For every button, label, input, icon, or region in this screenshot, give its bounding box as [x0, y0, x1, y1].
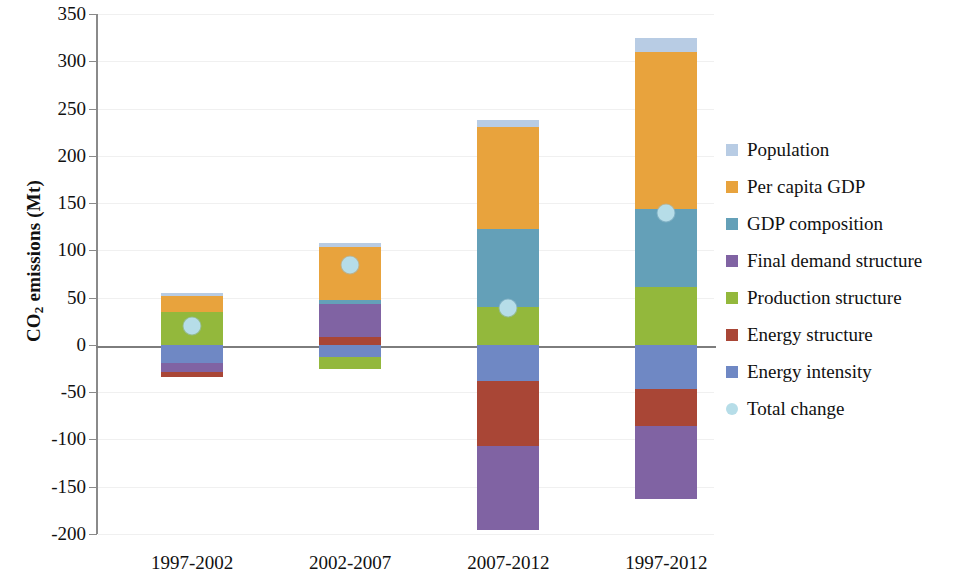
- legend-label: Energy structure: [747, 325, 873, 344]
- legend-item[interactable]: Energy intensity: [726, 353, 948, 390]
- bar-segment[interactable]: [635, 345, 697, 389]
- legend-item[interactable]: Production structure: [726, 279, 948, 316]
- y-axis-title-pre: CO: [23, 313, 44, 342]
- y-tick: [89, 534, 97, 535]
- x-axis-label: 2002-2007: [270, 552, 430, 572]
- legend-label: Per capita GDP: [747, 177, 865, 196]
- bar-segment[interactable]: [161, 296, 223, 312]
- y-tick-label: 200: [58, 145, 87, 167]
- bar-segment[interactable]: [635, 38, 697, 52]
- legend-item[interactable]: Final demand structure: [726, 242, 948, 279]
- y-tick-label: 350: [58, 3, 87, 25]
- legend-label: GDP composition: [747, 214, 883, 233]
- bar-segment[interactable]: [635, 426, 697, 499]
- y-axis-title-post: emissions (Mt): [23, 180, 44, 306]
- legend-item[interactable]: GDP composition: [726, 205, 948, 242]
- bar-segment[interactable]: [161, 345, 223, 363]
- bar-segment[interactable]: [477, 127, 539, 229]
- stacked-bar[interactable]: [477, 14, 539, 534]
- y-tick-label: 300: [58, 50, 87, 72]
- bar-segment[interactable]: [477, 229, 539, 307]
- x-axis-label: 1997-2012: [586, 552, 746, 572]
- legend-swatch-icon: [726, 144, 738, 156]
- bar-group[interactable]: [273, 14, 428, 534]
- legend-label: Population: [747, 140, 829, 159]
- total-change-marker[interactable]: [500, 300, 517, 317]
- bar-segment[interactable]: [161, 293, 223, 296]
- total-change-marker[interactable]: [342, 257, 359, 274]
- y-tick-label: 250: [58, 98, 87, 120]
- stacked-bar[interactable]: [635, 14, 697, 534]
- bar-segment[interactable]: [477, 446, 539, 530]
- legend-swatch-icon: [726, 366, 738, 378]
- y-tick-label: 50: [67, 287, 86, 309]
- legend-label: Production structure: [747, 288, 902, 307]
- total-change-marker[interactable]: [658, 205, 675, 222]
- x-axis-label: 2007-2012: [428, 552, 588, 572]
- bar-segment[interactable]: [319, 243, 381, 247]
- x-axis-label: 1997-2002: [112, 552, 272, 572]
- y-tick-label: -100: [51, 428, 86, 450]
- legend-label: Total change: [747, 399, 844, 418]
- stacked-bar[interactable]: [161, 14, 223, 534]
- legend-label: Final demand structure: [747, 251, 922, 270]
- bar-series-container: [96, 14, 716, 534]
- total-change-marker[interactable]: [184, 318, 201, 335]
- plot-area: 350300250200150100500-50-100-150-200 199…: [96, 14, 716, 534]
- bar-segment[interactable]: [319, 337, 381, 345]
- y-tick-label: -50: [61, 381, 86, 403]
- legend-swatch-icon: [726, 329, 738, 341]
- legend-item[interactable]: Total change: [726, 390, 948, 427]
- bar-segment[interactable]: [477, 120, 539, 127]
- bar-group[interactable]: [115, 14, 270, 534]
- bar-segment[interactable]: [319, 357, 381, 369]
- legend-swatch-icon: [726, 255, 738, 267]
- legend-item[interactable]: Energy structure: [726, 316, 948, 353]
- legend-label: Energy intensity: [747, 362, 872, 381]
- legend-swatch-icon: [726, 181, 738, 193]
- bar-segment[interactable]: [635, 389, 697, 426]
- y-tick-label: -200: [51, 523, 86, 545]
- y-axis-title: CO2 emissions (Mt): [23, 131, 45, 391]
- bar-segment[interactable]: [477, 345, 539, 381]
- legend-swatch-icon: [726, 218, 738, 230]
- y-tick-label: -150: [51, 476, 86, 498]
- legend-item[interactable]: Population: [726, 131, 948, 168]
- y-tick-label: 100: [58, 239, 87, 261]
- bar-segment[interactable]: [319, 304, 381, 337]
- chart-legend: PopulationPer capita GDPGDP compositionF…: [726, 131, 948, 427]
- legend-swatch-icon: [726, 403, 738, 415]
- y-tick-label: 150: [58, 192, 87, 214]
- gridline: [98, 534, 714, 535]
- stacked-bar[interactable]: [319, 14, 381, 534]
- co2-decomposition-chart: CO2 emissions (Mt) 350300250200150100500…: [0, 0, 956, 572]
- bar-segment[interactable]: [319, 345, 381, 357]
- y-axis-title-sub: 2: [31, 306, 46, 313]
- bar-segment[interactable]: [477, 381, 539, 446]
- legend-swatch-icon: [726, 292, 738, 304]
- bar-segment[interactable]: [161, 372, 223, 377]
- bar-segment[interactable]: [161, 363, 223, 372]
- bar-group[interactable]: [589, 14, 744, 534]
- bar-segment[interactable]: [635, 52, 697, 209]
- bar-segment[interactable]: [319, 300, 381, 305]
- bar-group[interactable]: [431, 14, 586, 534]
- y-tick-label: 0: [77, 334, 87, 356]
- legend-item[interactable]: Per capita GDP: [726, 168, 948, 205]
- bar-segment[interactable]: [635, 287, 697, 345]
